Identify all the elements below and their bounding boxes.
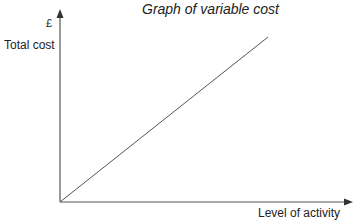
variable-cost-line (60, 37, 268, 202)
chart-title: Graph of variable cost (142, 1, 279, 17)
x-axis-label: Level of activity (258, 206, 340, 220)
y-axis-label: Total cost (4, 38, 55, 52)
y-axis-unit: £ (46, 17, 52, 29)
y-axis-arrow-icon (57, 9, 64, 18)
chart-canvas (0, 0, 359, 224)
x-axis-arrow-icon (344, 199, 353, 206)
